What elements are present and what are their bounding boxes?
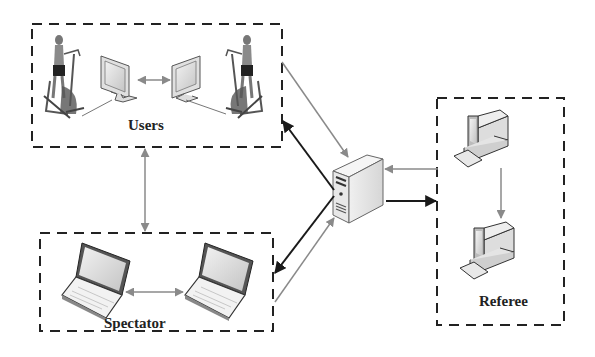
referee-to-server-arrow — [385, 168, 437, 169]
server-tower-icon — [333, 155, 383, 223]
person-on-elliptical-trainer-icon — [226, 35, 262, 118]
laptop-icon — [62, 243, 130, 321]
server-to-users-arrow — [283, 121, 334, 190]
desktop-computer-icon — [460, 222, 514, 279]
monitor-icon — [101, 56, 137, 102]
cable-line — [186, 100, 226, 114]
users-label: Users — [128, 117, 164, 134]
cable-line — [82, 100, 112, 116]
users-to-server-arrow — [282, 62, 348, 157]
laptop-icon — [185, 243, 253, 321]
spectator-label: Spectator — [104, 315, 166, 332]
monitor-icon — [172, 56, 200, 102]
desktop-computer-icon — [454, 110, 508, 167]
referee-label: Referee — [479, 293, 528, 310]
person-on-elliptical-trainer-icon — [44, 35, 84, 118]
server-to-spectator-arrow — [275, 196, 334, 273]
